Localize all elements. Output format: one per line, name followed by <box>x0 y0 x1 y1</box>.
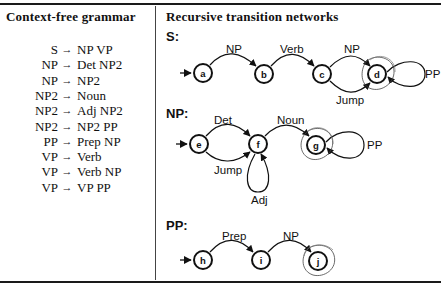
node-f: f <box>249 135 267 153</box>
edge-label: Jump <box>214 164 242 176</box>
network-pp: Prep NP h i j <box>180 230 335 276</box>
svg-text:a: a <box>200 68 206 79</box>
svg-text:h: h <box>200 255 206 266</box>
svg-text:d: d <box>374 69 380 80</box>
svg-text:e: e <box>196 139 201 150</box>
edge-f-g-noun <box>265 125 309 136</box>
edge-label: Prep <box>222 230 246 242</box>
edge-label: Det <box>214 114 233 126</box>
svg-text:c: c <box>319 69 324 80</box>
edge-a-b <box>210 54 256 66</box>
edge-label: NP <box>344 43 360 55</box>
edge-e-f-jump <box>206 152 250 161</box>
node-i: i <box>252 251 270 269</box>
edge-label: Noun <box>277 114 305 126</box>
edge-label: PP <box>425 68 441 80</box>
edge-label: NP <box>283 230 299 242</box>
svg-text:b: b <box>261 69 267 80</box>
edge-label: PP <box>367 139 383 151</box>
node-d: d <box>368 65 386 83</box>
rtn-diagram: NP Verb NP Jump PP a b c d <box>0 0 441 293</box>
edge-label: Adj <box>251 194 268 206</box>
edge-f-f-adj <box>247 154 268 192</box>
node-a: a <box>194 64 212 82</box>
edge-h-i-prep <box>210 240 253 252</box>
network-s: NP Verb NP Jump PP a b c d <box>180 43 441 106</box>
edge-b-c <box>271 54 314 66</box>
edge-e-f-det <box>206 124 250 136</box>
svg-text:g: g <box>313 140 319 151</box>
edge-label: Jump <box>336 94 364 106</box>
edge-i-j-np <box>268 240 311 252</box>
svg-text:i: i <box>260 255 263 266</box>
node-c: c <box>313 65 331 83</box>
node-h: h <box>194 251 212 269</box>
edge-label: Verb <box>280 43 304 55</box>
node-b: b <box>255 65 273 83</box>
svg-text:j: j <box>316 256 320 267</box>
node-e: e <box>190 135 208 153</box>
edge-label: NP <box>226 43 242 55</box>
node-g: g <box>307 136 325 154</box>
network-np: Det Jump Adj Noun PP e f g <box>176 114 383 206</box>
node-j: j <box>309 252 327 270</box>
